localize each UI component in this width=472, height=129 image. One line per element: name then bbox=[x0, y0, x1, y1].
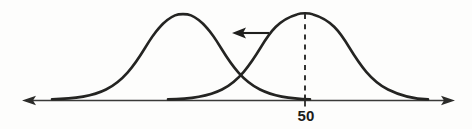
shifted-normal-curve bbox=[52, 14, 310, 99]
leftward-shift-arrow bbox=[232, 28, 269, 39]
horizontal-axis bbox=[22, 96, 455, 105]
figure-canvas bbox=[0, 0, 472, 129]
axis-tick-label-50: 50 bbox=[290, 108, 322, 123]
normal-curves-figure: 50 bbox=[0, 0, 472, 129]
